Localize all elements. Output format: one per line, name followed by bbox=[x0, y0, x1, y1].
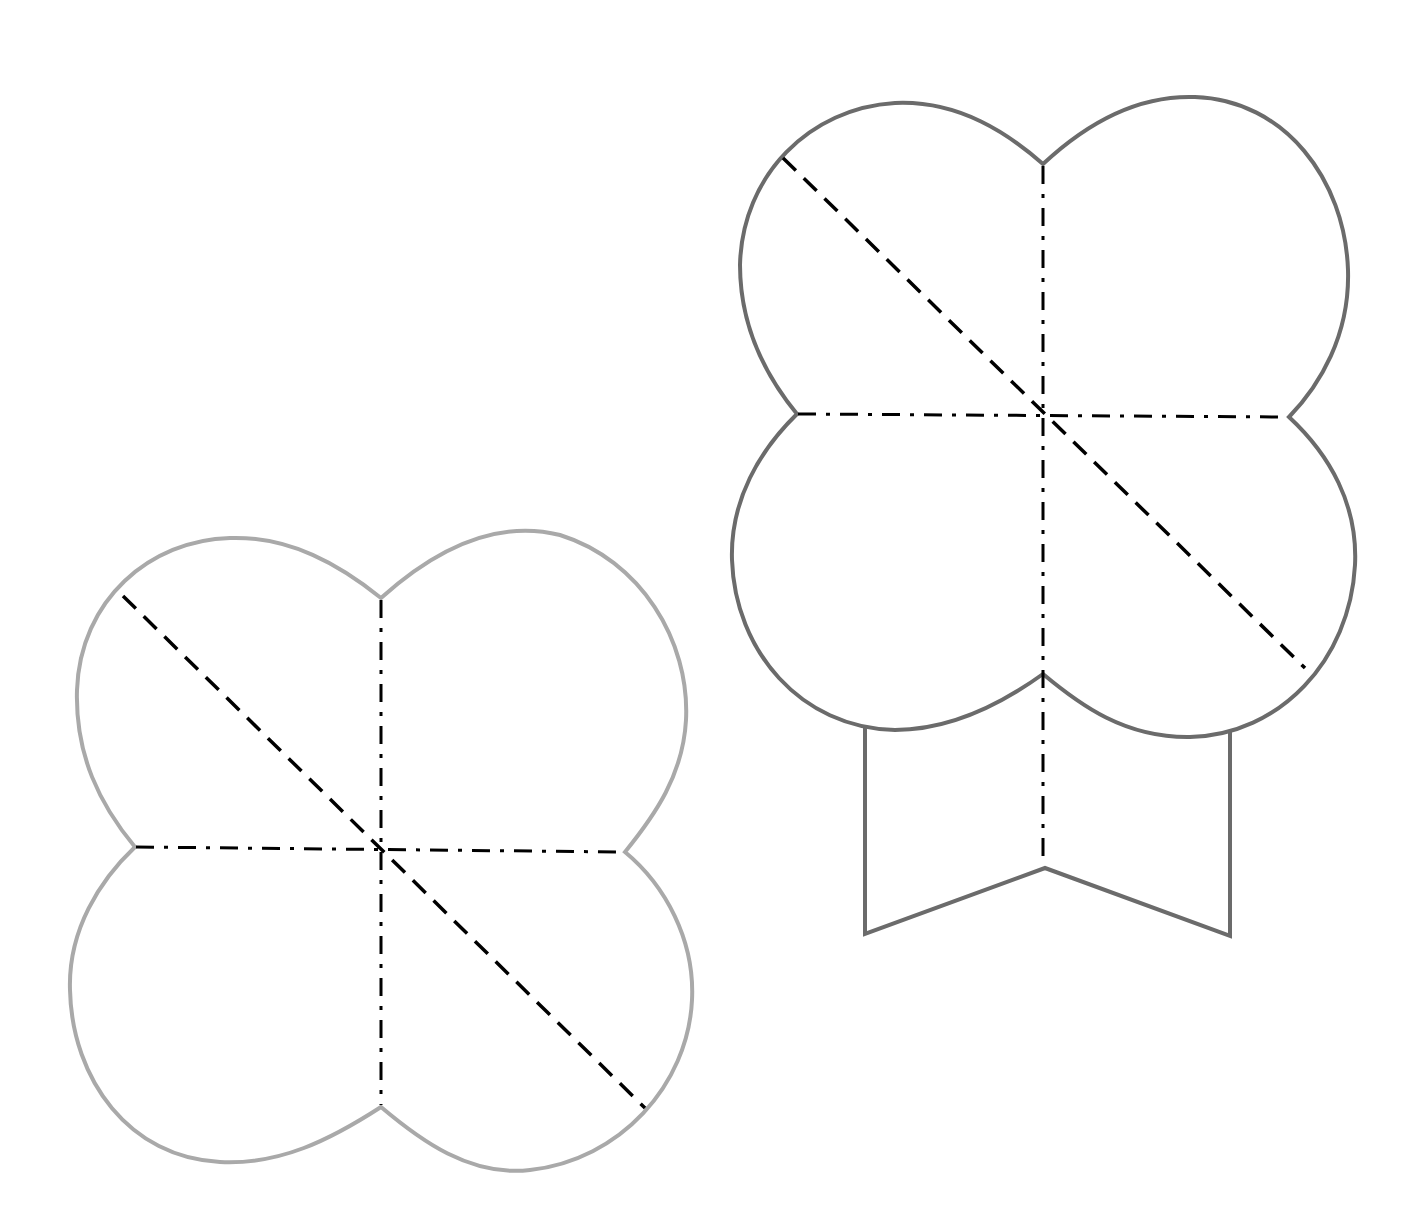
right-clover-with-stand bbox=[732, 97, 1355, 936]
stand-outline bbox=[865, 727, 1230, 936]
diagram-canvas bbox=[0, 0, 1426, 1213]
left-clover bbox=[70, 531, 692, 1171]
